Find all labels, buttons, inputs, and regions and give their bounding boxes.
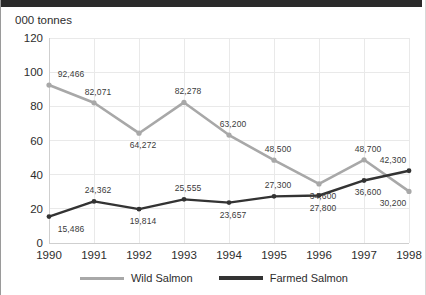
data-point bbox=[271, 158, 276, 163]
data-point bbox=[406, 189, 411, 194]
y-tick-label: 40 bbox=[9, 169, 43, 181]
x-tick-label: 1997 bbox=[351, 249, 377, 261]
data-point bbox=[136, 131, 141, 136]
x-tick-label: 1994 bbox=[216, 249, 242, 261]
x-tick-label: 1996 bbox=[306, 249, 332, 261]
data-point bbox=[317, 193, 322, 198]
data-point bbox=[227, 200, 232, 205]
data-point bbox=[407, 168, 412, 173]
chart-unit-title: 000 tonnes bbox=[15, 14, 85, 28]
top-dark-band bbox=[1, 0, 426, 7]
data-point bbox=[316, 181, 321, 186]
y-tick-label: 100 bbox=[9, 66, 43, 78]
data-point bbox=[362, 178, 367, 183]
data-point bbox=[272, 194, 277, 199]
x-tick-label: 1998 bbox=[396, 249, 422, 261]
plot-area bbox=[49, 38, 409, 243]
x-tick-label: 1993 bbox=[171, 249, 197, 261]
legend-swatch-farmed bbox=[219, 276, 263, 280]
legend-label: Wild Salmon bbox=[131, 272, 193, 284]
data-point bbox=[46, 82, 51, 87]
chart-screenshot: 000 tonnes 020406080100120 92,46682,0716… bbox=[0, 0, 426, 295]
data-point bbox=[181, 100, 186, 105]
right-edge-spacer bbox=[422, 0, 425, 295]
data-point bbox=[91, 100, 96, 105]
data-point bbox=[226, 132, 231, 137]
x-tick-label: 1991 bbox=[81, 249, 107, 261]
y-tick-label: 20 bbox=[9, 203, 43, 215]
y-tick-label: 0 bbox=[9, 237, 43, 249]
legend-label: Farmed Salmon bbox=[270, 272, 348, 284]
legend-entry[interactable]: Farmed Salmon bbox=[219, 272, 348, 284]
y-tick-label: 120 bbox=[9, 32, 43, 44]
x-tick-label: 1995 bbox=[261, 249, 287, 261]
chart-legend: Wild SalmonFarmed Salmon bbox=[1, 268, 426, 288]
legend-swatch-wild bbox=[80, 277, 124, 280]
legend-entry[interactable]: Wild Salmon bbox=[80, 272, 193, 284]
chart-svg bbox=[49, 38, 409, 243]
y-axis-labels: 020406080100120 bbox=[5, 38, 43, 243]
x-tick-label: 1992 bbox=[126, 249, 152, 261]
x-tick-label: 1990 bbox=[36, 249, 62, 261]
data-point bbox=[361, 157, 366, 162]
y-tick-label: 60 bbox=[9, 135, 43, 147]
data-point bbox=[137, 207, 142, 212]
data-point bbox=[92, 199, 97, 204]
data-point bbox=[47, 214, 52, 219]
x-axis-labels: 199019911992199319941995199619971998 bbox=[49, 249, 409, 265]
y-tick-label: 80 bbox=[9, 100, 43, 112]
data-point bbox=[182, 197, 187, 202]
